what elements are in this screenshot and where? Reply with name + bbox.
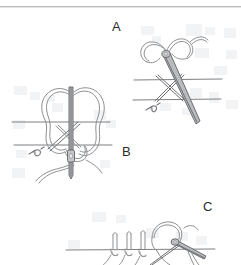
panel-label-b: B xyxy=(122,145,131,158)
panel-label-a: A xyxy=(112,20,121,33)
suture-illustration-artwork xyxy=(0,0,241,265)
panel-a-suture-thread xyxy=(141,37,208,63)
figure-container: A B C xyxy=(0,0,241,265)
top-divider-rule-shadow xyxy=(0,7,241,8)
panel-b-artwork xyxy=(12,87,112,183)
paper-texture-smudges xyxy=(12,24,238,249)
panel-b-left-loop xyxy=(42,88,70,153)
panel-c-thread-tails xyxy=(157,250,199,265)
panel-a-tissue-lines xyxy=(133,79,222,100)
panel-a-artwork xyxy=(133,37,222,124)
panel-label-c: C xyxy=(203,200,213,213)
panel-c-needle-shaft xyxy=(150,240,206,265)
panel-b-knot-mark xyxy=(29,147,44,156)
panel-b-crossed-threads xyxy=(48,122,81,151)
panel-b-tissue-lines xyxy=(12,122,112,145)
panel-b-lower-loop-and-tails xyxy=(36,146,102,183)
panel-a-needle xyxy=(163,53,200,124)
panel-b-needle-eye xyxy=(68,150,75,162)
panel-a-knot-mark xyxy=(146,103,160,112)
panel-b-needle xyxy=(69,87,73,179)
panel-c-tissue-line xyxy=(66,249,215,250)
panel-b-right-loop xyxy=(74,88,104,156)
panel-c-loop-stitches xyxy=(103,231,146,265)
panel-a-crossed-stitch xyxy=(155,74,185,102)
panel-c-needle-eye xyxy=(171,239,179,245)
panel-a-needle-eye xyxy=(162,51,170,58)
panel-c-artwork xyxy=(66,222,215,265)
panel-c-needle-and-thread xyxy=(152,222,198,251)
